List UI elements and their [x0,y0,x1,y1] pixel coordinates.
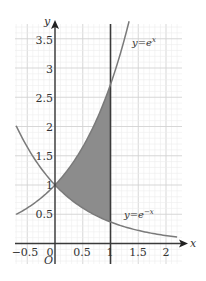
y-tick-label: 1.5 [36,150,54,163]
x-tick-label: 1.5 [129,246,147,259]
x-axis-label: x [190,237,197,250]
x-tick-label: 1 [107,246,114,259]
y-tick-label: 2 [46,121,53,134]
y-tick-label: 2.5 [36,92,54,105]
y-tick-label: 3 [46,63,53,76]
y-axis-label: y [43,15,51,28]
y-tick-label: 0.5 [36,208,54,221]
x-tick-label: 2 [163,246,170,259]
x-tick-label: 0 [47,246,54,259]
y-tick-label: 3.5 [36,34,54,47]
y-tick-label: 1 [46,179,53,192]
chart: y x O 0.5 1 1.5 2 2.5 3 3.5 −0.5 0 0.5 1… [0,0,206,281]
x-tick-label: −0.5 [12,246,39,259]
x-tick-label: 0.5 [73,246,91,259]
curve-label-exp: y=ex [131,36,156,48]
